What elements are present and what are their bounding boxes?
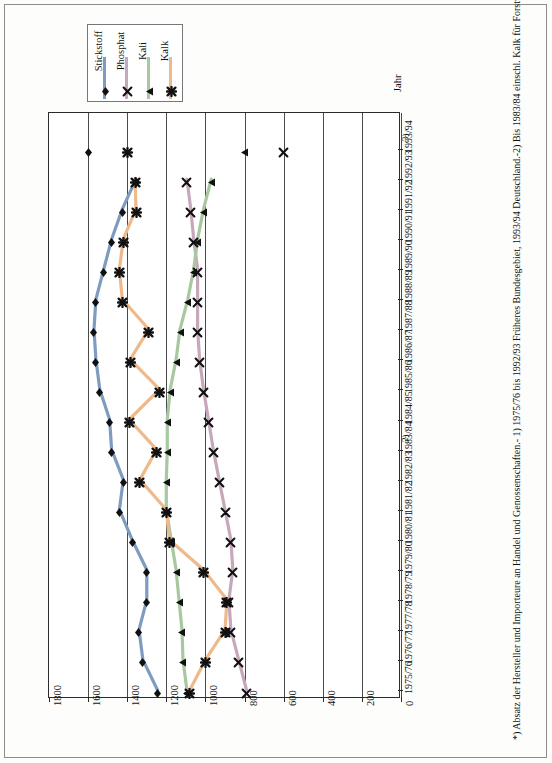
legend-marker-star-icon	[166, 86, 175, 95]
year-label-1979-80: 1979/80	[404, 541, 414, 574]
value-tick-0	[401, 697, 402, 702]
year-label-1990-91: 1990/91	[404, 210, 414, 243]
year-label-1980-81: 1980/81	[404, 511, 414, 544]
value-axis-label-0: 0	[404, 701, 415, 706]
year-label-1992-93: 1992/93	[404, 150, 414, 183]
series-lines	[49, 113, 401, 699]
legend-marker-x-icon	[122, 86, 131, 95]
value-axis-label-1200: 1200	[169, 685, 180, 706]
year-label-1977-78: 1977/78	[404, 601, 414, 634]
year-label-1984-85: 1984/85	[404, 391, 414, 424]
year-label-1976-77: 1976/77	[404, 631, 414, 664]
year-label-1981-82: 1981/82	[404, 481, 414, 514]
legend-kalk[interactable]: Kalk	[159, 27, 181, 101]
axis-title-jahr: Jahr	[392, 75, 403, 93]
gridline-0	[401, 113, 402, 697]
legend-kali[interactable]: Kali	[137, 27, 159, 101]
line-kali	[166, 179, 211, 690]
legend-label-stickstoff: Stickstoff	[93, 31, 104, 72]
year-superscript-1983-84: 2)	[401, 434, 410, 442]
value-axis-label-1400: 1400	[130, 685, 141, 706]
legend-marker-triangle-icon	[144, 86, 153, 95]
year-superscript-1993-94: 3)	[401, 134, 410, 142]
value-axis-label-400: 400	[326, 690, 337, 706]
value-axis-label-600: 600	[287, 690, 298, 706]
value-axis-label-200: 200	[365, 690, 376, 706]
chart-page: StickstoffPhosphatKaliKalk Jahr *) Absat…	[0, 0, 552, 763]
year-label-1986-87: 1986/87	[404, 331, 414, 364]
year-label-1985-86: 1985/86	[404, 361, 414, 394]
chart-footnote: *) Absatz der Hersteller und Importeure …	[511, 10, 522, 740]
year-label-1988-89: 1988/89	[404, 270, 414, 303]
year-label-1975-76: 1975/76	[404, 661, 414, 694]
plot-area	[48, 112, 400, 698]
legend-stickstoff[interactable]: Stickstoff	[93, 27, 115, 101]
year-label-1978-79: 1978/79	[404, 571, 414, 604]
value-axis-label-1800: 1800	[52, 685, 63, 706]
line-stickstoff	[94, 179, 158, 690]
year-label-1991-92: 1991/92	[404, 180, 414, 213]
legend-label-kali: Kali	[137, 42, 148, 60]
legend-phosphat[interactable]: Phosphat	[115, 27, 137, 101]
value-axis-label-1000: 1000	[208, 685, 219, 706]
value-axis-label-800: 800	[248, 690, 259, 706]
value-axis-label-1600: 1600	[91, 685, 102, 706]
chart-legend: StickstoffPhosphatKaliKalk	[87, 24, 183, 102]
year-label-1982-83: 1982/83	[404, 451, 414, 484]
legend-marker-diamond-icon	[100, 86, 109, 95]
legend-label-phosphat: Phosphat	[115, 32, 126, 71]
year-label-1987-88: 1987/88	[404, 301, 414, 334]
year-label-1989-90: 1989/90	[404, 240, 414, 273]
legend-label-kalk: Kalk	[159, 41, 170, 61]
